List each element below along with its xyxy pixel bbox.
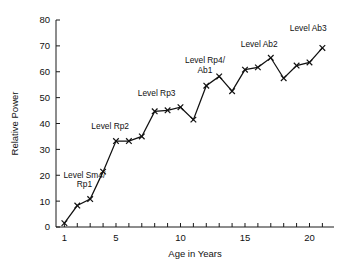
data-point-marker: [74, 203, 80, 209]
y-tick-label: 20: [39, 170, 50, 181]
x-tick-label: 15: [240, 232, 251, 243]
annotation-rp2: Level Rp2: [91, 121, 129, 131]
x-axis: 15101520 Age in Years: [56, 223, 334, 259]
data-point-marker: [281, 75, 287, 81]
y-axis-tick-labels: 01020304050607080: [39, 14, 50, 232]
data-point-marker: [139, 134, 145, 140]
x-tick-label: 10: [175, 232, 186, 243]
y-tick-label: 0: [45, 221, 50, 232]
y-tick-label: 30: [39, 144, 50, 155]
y-tick-label: 60: [39, 66, 50, 77]
x-axis-ticks: [64, 223, 322, 227]
series-group: [62, 45, 326, 226]
x-tick-label: 1: [62, 232, 67, 243]
x-axis-tick-labels: 15101520: [62, 232, 315, 243]
y-tick-label: 70: [39, 40, 50, 51]
data-line: [64, 48, 322, 223]
annotation-sm4-rp1: Level Sm4/Rp1: [63, 170, 106, 190]
data-point-markers: [62, 45, 326, 226]
relative-power-line-chart: 01020304050607080 Relative Power 1510152…: [0, 0, 347, 263]
data-point-marker: [216, 74, 222, 80]
y-axis: 01020304050607080 Relative Power: [9, 14, 60, 232]
data-point-marker: [268, 55, 274, 61]
x-axis-title: Age in Years: [168, 248, 222, 259]
y-axis-title: Relative Power: [9, 92, 20, 156]
annotation-ab3: Level Ab3: [290, 23, 327, 33]
y-tick-label: 80: [39, 14, 50, 25]
x-tick-label: 20: [304, 232, 315, 243]
annotation-rp4-ab1: Level Rp4/Ab1: [185, 55, 226, 75]
x-tick-label: 5: [113, 232, 118, 243]
annotation-rp3: Level Rp3: [138, 88, 176, 98]
data-point-marker: [229, 88, 235, 94]
annotation-ab2: Level Ab2: [241, 39, 278, 49]
y-tick-label: 10: [39, 196, 50, 207]
annotation-layer: Level Sm4/Rp1Level Rp2Level Rp3Level Rp4…: [63, 23, 327, 189]
data-point-marker: [320, 45, 326, 51]
data-point-marker: [203, 83, 209, 89]
data-point-marker: [191, 117, 197, 123]
y-tick-label: 50: [39, 92, 50, 103]
data-point-marker: [87, 196, 93, 202]
chart-canvas: 01020304050607080 Relative Power 1510152…: [0, 0, 347, 263]
y-axis-ticks: [56, 20, 60, 227]
y-tick-label: 40: [39, 118, 50, 129]
